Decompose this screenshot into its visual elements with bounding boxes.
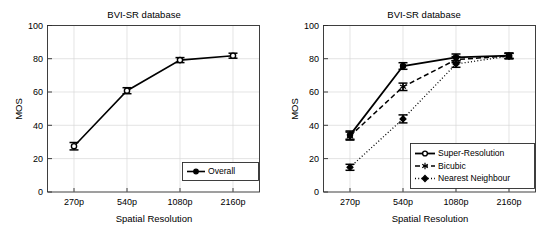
figure-canvas: BVI-SR database <box>0 0 553 238</box>
chart-svg-left: BVI-SR database <box>0 0 277 238</box>
chart-svg-right: BVI-SR database 0 <box>277 0 553 238</box>
x-tick-label-r-2160p: 2160p <box>496 197 521 207</box>
x-tick-label-1080p: 1080p <box>167 197 192 207</box>
legend-marker-super-resolution <box>423 151 428 156</box>
x-tick-label-270p: 270p <box>64 197 84 207</box>
errorbars-super-resolution <box>346 53 514 139</box>
series-bicubic <box>346 52 514 140</box>
legend-right[interactable]: Super-Resolution Bicubic Nearest Neighbo… <box>411 144 535 189</box>
x-tick-label-r-540p: 540p <box>393 197 413 207</box>
y-tick-label-r-0: 0 <box>314 187 319 197</box>
legend-marker-overall <box>194 169 199 174</box>
x-axis-title-right: Spatial Resolution <box>392 213 469 224</box>
series-super-resolution <box>346 53 514 139</box>
chart-title-right: BVI-SR database <box>387 9 460 20</box>
legend-label-super-resolution: Super-Resolution <box>438 148 505 158</box>
y-tick-label-r-40: 40 <box>309 121 319 131</box>
y-tick-label-r-60: 60 <box>309 87 319 97</box>
markers-bicubic <box>347 52 512 139</box>
y-tick-label-80: 80 <box>33 54 43 64</box>
chart-panel-left: BVI-SR database <box>0 0 277 238</box>
markers-overall <box>71 53 235 149</box>
series-overall <box>70 53 238 150</box>
y-axis-title-right: MOS <box>289 98 300 120</box>
y-tick-label-0: 0 <box>38 187 43 197</box>
chart-panel-right: BVI-SR database 0 <box>277 0 553 238</box>
x-axis-left: 270p 540p 1080p 2160p <box>64 188 246 207</box>
legend-label-overall: Overall <box>208 166 235 176</box>
x-tick-label-540p: 540p <box>117 197 137 207</box>
x-axis-right: 270p 540p 1080p 2160p <box>340 188 522 207</box>
x-tick-label-2160p: 2160p <box>220 197 245 207</box>
series-line-super-resolution <box>350 56 509 135</box>
y-axis-right: 0 20 40 60 80 100 <box>304 21 328 198</box>
legend-label-bicubic: Bicubic <box>438 161 466 171</box>
x-tick-label-r-1080p: 1080p <box>443 197 468 207</box>
y-tick-label-r-20: 20 <box>309 154 319 164</box>
legend-label-nearest-neighbour: Nearest Neighbour <box>438 173 510 183</box>
x-tick-label-r-270p: 270p <box>340 197 360 207</box>
y-tick-label-60: 60 <box>33 87 43 97</box>
y-axis-title-left: MOS <box>13 98 24 120</box>
y-tick-label-r-80: 80 <box>309 54 319 64</box>
legend-left[interactable]: Overall <box>183 163 259 181</box>
errorbars-overall <box>70 53 238 150</box>
y-tick-label-40: 40 <box>33 121 43 131</box>
y-tick-label-100: 100 <box>28 21 43 31</box>
y-tick-label-r-100: 100 <box>304 21 319 31</box>
series-line-bicubic <box>350 56 509 136</box>
y-axis-left: 0 20 40 60 80 100 <box>28 21 52 198</box>
y-gridlines-left <box>48 59 259 159</box>
errorbars-bicubic <box>346 53 514 140</box>
chart-title-left: BVI-SR database <box>107 9 180 20</box>
series-line-overall <box>74 56 233 147</box>
y-tick-label-20: 20 <box>33 154 43 164</box>
x-axis-title-left: Spatial Resolution <box>116 213 193 224</box>
